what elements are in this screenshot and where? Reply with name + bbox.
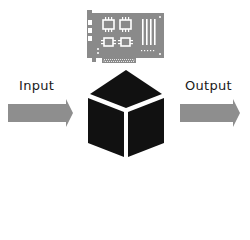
input-label: Input	[19, 78, 54, 93]
black-box-cube-icon	[88, 70, 164, 157]
output-label: Output	[185, 78, 232, 93]
output-arrow-icon	[180, 99, 240, 127]
input-arrow-icon	[8, 99, 73, 127]
